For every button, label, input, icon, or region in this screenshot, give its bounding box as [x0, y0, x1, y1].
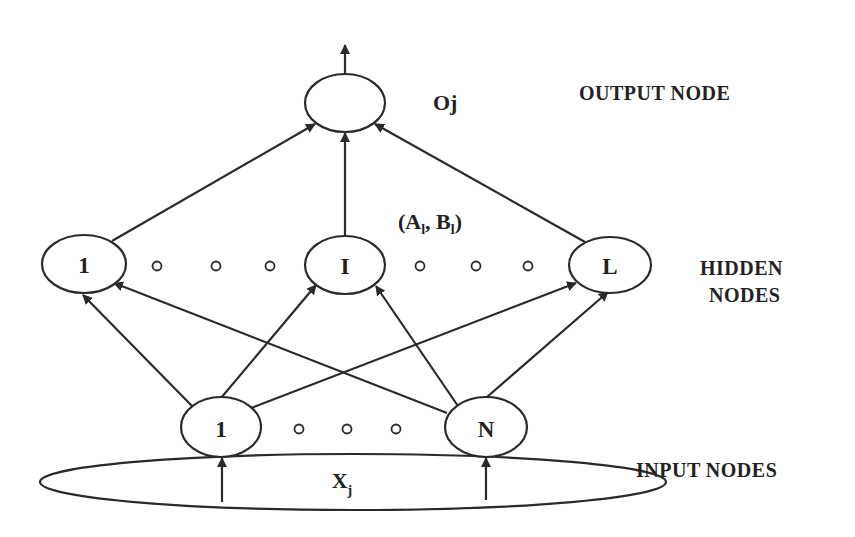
- edges-input-to-hidden: [83, 283, 608, 413]
- input-node-N-label: N: [478, 417, 495, 442]
- hidden-ellipsis-right: [416, 262, 533, 271]
- edge-iN-to-h1: [114, 283, 447, 413]
- edge-i1-to-hL: [251, 283, 576, 408]
- ellipsis-dot: [524, 262, 533, 271]
- input-ellipsis: [295, 425, 401, 434]
- ellipsis-dot: [472, 262, 481, 271]
- edge-iN-to-hL: [487, 292, 608, 397]
- hidden-node-I: I: [305, 236, 385, 294]
- edge-iN-to-hI: [376, 286, 458, 406]
- output-layer-label: OUTPUT NODE: [579, 82, 730, 104]
- input-layer-label: INPUT NODES: [636, 459, 777, 481]
- ellipsis-dot: [392, 425, 401, 434]
- edge-i1-to-h1: [83, 295, 192, 406]
- hidden-layer-label-line2: NODES: [709, 284, 780, 306]
- ellipsis-dot: [295, 425, 304, 434]
- ellipsis-dot: [153, 262, 162, 271]
- hidden-ellipsis-left: [153, 262, 275, 271]
- ellipsis-dot: [416, 262, 425, 271]
- input-vector: Xj: [40, 454, 666, 510]
- hidden-node-1: 1: [42, 235, 126, 293]
- hidden-layer-label-line1: HIDDEN: [700, 257, 783, 279]
- output-node-shape: [305, 74, 385, 132]
- hidden-node-I-label: I: [341, 254, 350, 279]
- neural-network-diagram: Xj Oj 1 I L: [0, 0, 855, 537]
- edges-hidden-to-output: [112, 124, 585, 242]
- input-node-1: 1: [181, 397, 261, 457]
- output-annotation-oj: Oj: [433, 90, 457, 115]
- input-vector-ellipse: [40, 454, 666, 510]
- hidden-node-L-label: L: [602, 254, 617, 279]
- parameter-annotation: (Al, Bl): [398, 209, 462, 237]
- edge-i1-to-hI: [221, 285, 316, 398]
- ellipsis-dot: [212, 262, 221, 271]
- hidden-node-1-label: 1: [78, 253, 90, 278]
- edge-h1-to-out: [112, 124, 315, 241]
- input-node-N: N: [445, 397, 527, 457]
- ellipsis-dot: [343, 425, 352, 434]
- hidden-node-L: L: [569, 237, 651, 293]
- input-node-1-label: 1: [215, 417, 227, 442]
- ellipsis-dot: [266, 262, 275, 271]
- output-node: [305, 74, 385, 132]
